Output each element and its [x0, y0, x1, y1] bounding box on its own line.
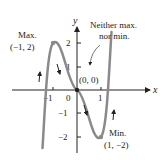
increasing-arrow-left [39, 72, 40, 82]
max-label: Max. [18, 30, 37, 40]
neither-label-line2: nor min. [99, 31, 130, 41]
increasing-arrow-right [113, 110, 114, 120]
decreasing-arrow-left [57, 64, 60, 74]
neither-label-line1: Neither max. [90, 20, 137, 30]
min-point [99, 135, 103, 139]
y-tick-label-2: 2 [66, 38, 71, 48]
function-graph: x y −1 0 1 2 1 −1 −2 Max. (−1, 2) Neithe… [0, 0, 162, 160]
y-tick-label-neg1: −1 [58, 108, 68, 118]
max-point [51, 41, 55, 45]
max-coords: (−1, 2) [10, 42, 35, 52]
x-tick-label-0: 0 [66, 93, 71, 103]
origin-point [75, 88, 79, 92]
x-tick-label-1: 1 [98, 93, 103, 103]
neither-pointer-line [90, 45, 100, 65]
y-axis-label: y [72, 15, 78, 26]
y-tick-label-neg2: −2 [58, 132, 68, 142]
min-label: Min. [109, 128, 126, 138]
origin-label: (0, 0) [79, 75, 99, 85]
min-coords: (1, −2) [104, 140, 129, 150]
x-axis-label: x [152, 84, 158, 95]
